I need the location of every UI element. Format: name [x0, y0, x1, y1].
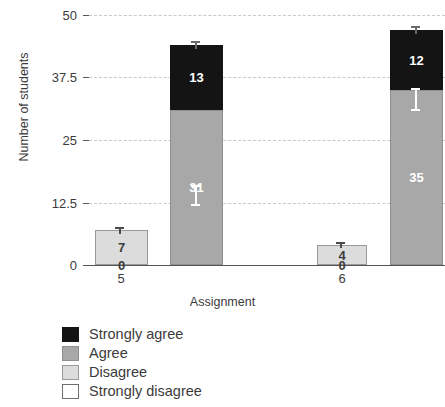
stacked-bar-chart: Number of students 50 37.5 25 12.5 0 7 0: [0, 0, 445, 407]
x-tick-label-5: 5: [101, 271, 141, 286]
segment-value-strongly-disagree-a6: 0: [338, 259, 345, 272]
y-tick-label-37_5: 37.5: [22, 70, 77, 85]
bar-assignment6-strongly-disagree: 0: [317, 259, 367, 271]
legend-item-strongly-agree: Strongly agree: [62, 325, 202, 344]
segment-value-strongly-disagree-a5: 0: [118, 259, 125, 272]
error-cap-top-disagree-a5: [115, 227, 124, 229]
bar-assignment5-agree-stack: 31 13: [170, 45, 223, 265]
y-tick-label-50: 50: [22, 8, 77, 23]
error-bar-agree-a5: [195, 185, 197, 205]
error-cap-top-a5: [191, 41, 200, 43]
segment-strongly-disagree-a5: 0: [95, 259, 148, 271]
bar-assignment5-strongly-disagree: 0: [95, 259, 148, 271]
segment-strongly-agree-a5: 13: [170, 45, 223, 110]
gridline-50: [89, 15, 445, 16]
legend-item-disagree: Disagree: [62, 363, 202, 382]
legend-swatch-agree: [62, 346, 79, 361]
y-tick-label-25: 25: [22, 133, 77, 148]
legend-item-agree: Agree: [62, 344, 202, 363]
segment-value-strongly-agree-a6: 12: [409, 54, 423, 67]
y-tick-label-12_5: 12.5: [22, 196, 77, 211]
segment-value-agree-a6: 35: [409, 171, 423, 184]
error-cap-lower-agree-a5: [191, 204, 200, 206]
y-axis-label: Number of students: [17, 27, 31, 187]
segment-strongly-agree-a6: 12: [390, 30, 443, 90]
legend-swatch-strongly-disagree: [62, 384, 79, 399]
chart-legend: Strongly agree Agree Disagree Strongly d…: [62, 325, 202, 401]
error-cap-top-disagree-a6: [336, 242, 345, 244]
x-axis-label: Assignment: [0, 295, 445, 309]
legend-label-agree: Agree: [89, 346, 128, 361]
segment-value-disagree-a5: 7: [118, 241, 125, 254]
bar-assignment6-agree-stack: 35 12: [390, 30, 443, 265]
legend-label-strongly-agree: Strongly agree: [89, 327, 183, 342]
chart-title: [0, 0, 445, 3]
legend-swatch-strongly-agree: [62, 327, 79, 342]
legend-item-strongly-disagree: Strongly disagree: [62, 382, 202, 401]
x-tick-label-6: 6: [322, 271, 362, 286]
error-bar-agree-a6: [415, 88, 417, 110]
error-cap-upper-agree-a5: [191, 185, 200, 187]
segment-strongly-disagree-a6: 0: [317, 259, 367, 271]
error-cap-top-a6: [411, 26, 420, 28]
legend-label-strongly-disagree: Strongly disagree: [89, 384, 202, 399]
error-cap-upper-agree-a6: [411, 88, 420, 90]
error-cap-lower-agree-a6: [411, 109, 420, 111]
segment-agree-a6: 35: [390, 90, 443, 265]
segment-value-strongly-agree-a5: 13: [189, 71, 203, 84]
legend-label-disagree: Disagree: [89, 365, 147, 380]
legend-swatch-disagree: [62, 365, 79, 380]
y-tick-label-0: 0: [22, 258, 77, 273]
